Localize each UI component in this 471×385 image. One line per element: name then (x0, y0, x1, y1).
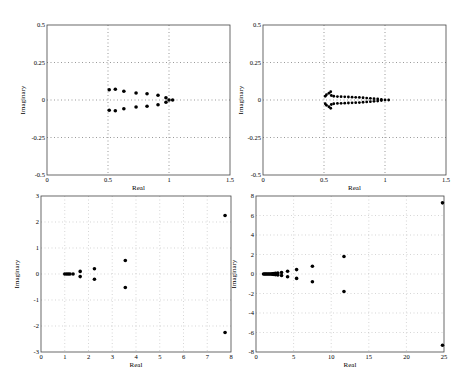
subplot-3: 012345678-3-2-10123RealImaginary (13, 192, 233, 369)
data-point (164, 100, 168, 104)
x-tick-label: 0 (261, 176, 264, 183)
x-axis-label: Real (132, 184, 145, 192)
data-point (358, 96, 361, 99)
y-tick-label: 0 (251, 270, 254, 277)
x-tick-label: 10 (328, 353, 335, 360)
x-tick-label: 5 (158, 353, 161, 360)
y-tick-label: -0.25 (247, 134, 261, 141)
subplot-2: 00.511.5-0.5-0.2500.250.5RealImaginary (237, 21, 450, 192)
data-point (71, 272, 75, 276)
data-point (387, 99, 390, 102)
y-tick-label: -3 (34, 348, 39, 355)
data-point (145, 92, 149, 96)
data-point (351, 96, 354, 99)
data-point (167, 98, 171, 102)
data-point (340, 95, 343, 98)
x-tick-label: 0 (254, 353, 257, 360)
data-point (145, 105, 149, 109)
x-tick-label: 8 (229, 353, 232, 360)
x-tick-label: 3 (111, 353, 114, 360)
data-point (134, 91, 138, 95)
data-point (373, 100, 376, 103)
y-tick-label: 0.5 (37, 21, 45, 28)
data-point (122, 90, 126, 94)
x-tick-label: 1 (383, 176, 386, 183)
data-point (329, 90, 332, 93)
data-point (93, 277, 97, 281)
y-tick-label: -4 (249, 309, 255, 316)
data-point (332, 102, 335, 105)
x-tick-label: 15 (366, 353, 373, 360)
data-point (342, 290, 346, 294)
subplot-4: 0510152025-8-6-4-202468RealImaginary (230, 192, 447, 369)
y-tick-label: -6 (249, 329, 255, 336)
y-tick-label: 1 (36, 244, 39, 251)
data-point (365, 97, 368, 100)
data-point (332, 95, 335, 98)
data-point (311, 264, 315, 268)
y-tick-label: 2 (251, 251, 254, 258)
x-tick-label: 1.5 (226, 176, 234, 183)
x-tick-label: 0.5 (320, 176, 328, 183)
data-point (336, 95, 339, 98)
y-tick-label: 0 (258, 96, 261, 103)
x-tick-label: 4 (134, 353, 138, 360)
x-tick-label: 20 (403, 353, 410, 360)
data-point (329, 107, 332, 110)
data-point (362, 96, 365, 99)
x-tick-label: 1 (167, 176, 170, 183)
data-point (107, 88, 111, 92)
x-tick-label: 7 (206, 353, 210, 360)
y-tick-label: 0.25 (250, 59, 261, 66)
data-point (330, 94, 333, 97)
data-point (156, 93, 160, 97)
x-tick-label: 5 (292, 353, 295, 360)
y-axis-label: Imaginary (237, 85, 245, 114)
x-axis-label: Real (348, 184, 361, 192)
data-point (325, 93, 328, 96)
data-point (325, 104, 328, 107)
x-tick-label: 25 (441, 353, 448, 360)
y-axis-label: Imaginary (230, 259, 238, 288)
data-point (286, 275, 290, 279)
data-point (362, 101, 365, 104)
data-point (347, 96, 350, 99)
data-point (347, 102, 350, 105)
y-axis-label: Imaginary (13, 259, 21, 288)
data-point (340, 102, 343, 105)
data-point (330, 103, 333, 106)
data-point (171, 98, 175, 102)
data-point (365, 101, 368, 104)
data-point (354, 101, 357, 104)
data-point (276, 273, 280, 277)
y-tick-label: -2 (249, 290, 254, 297)
data-point (124, 286, 128, 290)
y-tick-label: -0.5 (35, 171, 45, 178)
y-tick-label: 6 (251, 212, 255, 219)
data-point (376, 100, 379, 103)
data-point (134, 105, 138, 109)
data-point (441, 201, 445, 205)
data-point (223, 214, 227, 218)
data-point (114, 109, 118, 113)
data-point (342, 255, 346, 259)
data-point (336, 102, 339, 105)
x-axis-label: Real (344, 361, 357, 369)
data-point (343, 95, 346, 98)
x-tick-label: 0.5 (104, 176, 112, 183)
data-point (280, 274, 284, 278)
x-axis-label: Real (130, 361, 143, 369)
y-tick-label: -1 (34, 296, 39, 303)
data-point (114, 87, 118, 91)
x-tick-label: 0 (45, 176, 48, 183)
y-tick-label: 0 (36, 270, 39, 277)
y-axis-label: Imaginary (19, 85, 27, 114)
data-point (78, 270, 82, 274)
data-point (311, 280, 315, 284)
data-point (122, 107, 126, 111)
y-tick-label: -0.25 (31, 134, 45, 141)
y-tick-label: 0.5 (253, 21, 261, 28)
x-tick-label: 2 (87, 353, 90, 360)
subplot-1: 00.511.5-0.5-0.2500.250.5RealImaginary (19, 21, 234, 192)
data-point (286, 269, 290, 273)
